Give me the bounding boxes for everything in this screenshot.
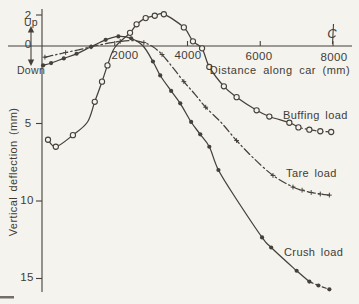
x-tick-label-6000: 6000 [246, 51, 273, 63]
y-tick-label-15: 15 [20, 272, 33, 284]
open-circle-marker [70, 133, 75, 138]
filled-circle-marker [104, 38, 108, 42]
down-label: Down [17, 65, 45, 76]
open-circle-marker [53, 144, 58, 149]
open-circle-marker [296, 125, 301, 130]
filled-circle-marker [189, 120, 193, 124]
deflection-chart-figure: C 2 0 5 10 15 2000 4000 6000 8000 Distan… [0, 0, 359, 304]
open-circle-marker [307, 127, 312, 132]
filled-circle-marker [62, 56, 66, 60]
open-circle-marker [92, 99, 97, 104]
filled-circle-marker [178, 101, 182, 105]
chart-canvas: C [0, 0, 359, 304]
x-tick-label-2000: 2000 [112, 50, 139, 62]
x-axis-label: Distance along car (mm) [210, 65, 350, 76]
open-circle-marker [318, 129, 323, 134]
x-tick-label-8000: 8000 [321, 52, 348, 64]
open-circle-marker [99, 79, 104, 84]
y-axis-label: Vertical deflection (mm) [7, 108, 19, 237]
filled-circle-marker [158, 73, 162, 77]
filled-circle-marker [116, 34, 120, 38]
scan-artifact [0, 296, 14, 299]
open-circle-marker [267, 114, 272, 119]
filled-circle-marker [49, 61, 53, 65]
filled-circle-marker [151, 59, 155, 63]
filled-circle-marker [198, 132, 202, 136]
open-circle-marker [254, 108, 259, 113]
series-line-dashed-tail [298, 127, 331, 132]
series-label-tare-load: Tare load [286, 167, 337, 179]
y-tick-label-0: 0 [25, 39, 32, 51]
series-label-buffing-load: Buffing load [283, 109, 348, 121]
open-circle-marker [234, 95, 239, 100]
y-tick-label-5: 5 [25, 118, 32, 130]
series-label-crush-load: Crush load [284, 246, 343, 258]
y-tick-label-10: 10 [20, 195, 33, 207]
up-label: Up [24, 17, 38, 28]
x-tick-label-4000: 4000 [175, 50, 202, 62]
open-circle-marker [329, 129, 334, 134]
open-circle-marker [45, 137, 50, 142]
filled-circle-marker [307, 280, 311, 284]
filled-circle-marker [327, 287, 331, 291]
series-buffing-load [45, 12, 333, 150]
open-circle-marker [221, 84, 226, 89]
centerline-symbol: C [327, 24, 337, 44]
filled-circle-marker [169, 89, 173, 93]
filled-circle-marker [269, 245, 273, 249]
filled-circle-marker [207, 145, 211, 149]
open-circle-marker [127, 30, 132, 35]
series-line [48, 14, 298, 147]
open-circle-marker [134, 22, 139, 27]
open-circle-marker [152, 13, 157, 18]
open-circle-marker [143, 16, 148, 21]
filled-circle-marker [74, 52, 78, 56]
filled-circle-marker [260, 235, 264, 239]
open-circle-marker [190, 39, 195, 44]
filled-circle-marker [129, 36, 133, 40]
filled-circle-marker [216, 168, 220, 172]
open-circle-marker [161, 12, 166, 17]
filled-circle-marker [316, 283, 320, 287]
filled-circle-marker [89, 45, 93, 49]
open-circle-marker [181, 25, 186, 30]
filled-circle-marker [295, 269, 299, 273]
svg-text:C: C [327, 26, 337, 41]
open-circle-marker [105, 63, 110, 68]
